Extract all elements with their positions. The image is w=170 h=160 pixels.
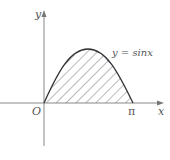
y-axis (42, 10, 47, 146)
sine-area-diagram: y x O π y = sinx (0, 0, 170, 160)
origin-label: O (32, 105, 41, 118)
y-axis-label: y (34, 8, 42, 21)
x-axis-label: x (158, 105, 165, 118)
y-axis-arrow-icon (42, 10, 47, 17)
pi-tick-label: π (128, 105, 135, 118)
curve-label: y = sinx (111, 47, 153, 58)
